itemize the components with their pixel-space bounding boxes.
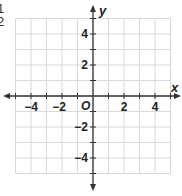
y-tick-label: 4 [81, 27, 88, 41]
axes [3, 5, 181, 191]
x-tick-label: −4 [24, 100, 38, 114]
x-axis-label: x [170, 80, 179, 95]
y-tick-label: 2 [81, 58, 88, 72]
x-tick-label: 2 [121, 100, 128, 114]
y-tick-label: −2 [74, 120, 88, 134]
y-axis-up-arrow-icon [90, 5, 96, 12]
x-tick-label: 4 [152, 100, 159, 114]
origin-label: O [81, 99, 91, 113]
y-tick-label: −4 [74, 151, 88, 165]
coordinate-plane: y x O −4 −2 2 4 4 2 −2 −4 [0, 0, 182, 196]
y-axis-label: y [98, 3, 107, 18]
x-axis-left-arrow-icon [3, 93, 10, 99]
y-axis-down-arrow-icon [90, 184, 96, 191]
x-tick-label: −2 [52, 100, 66, 114]
